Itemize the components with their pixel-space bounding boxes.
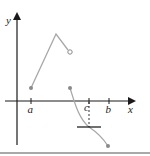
- open-endpoint: [68, 50, 72, 54]
- tick-label-c: c: [84, 101, 89, 113]
- closed-endpoint-a: [29, 86, 33, 90]
- function-graph: y x a c b: [0, 0, 150, 156]
- y-axis-label: y: [5, 14, 11, 26]
- closed-endpoint-b: [106, 144, 110, 148]
- tick-label-a: a: [28, 103, 34, 115]
- tick-label-b: b: [106, 103, 112, 115]
- x-axis-label: x: [127, 103, 133, 115]
- closed-endpoint-jump: [68, 86, 72, 90]
- curve-segment-right: [70, 88, 108, 146]
- curve-segment-left: [31, 34, 68, 88]
